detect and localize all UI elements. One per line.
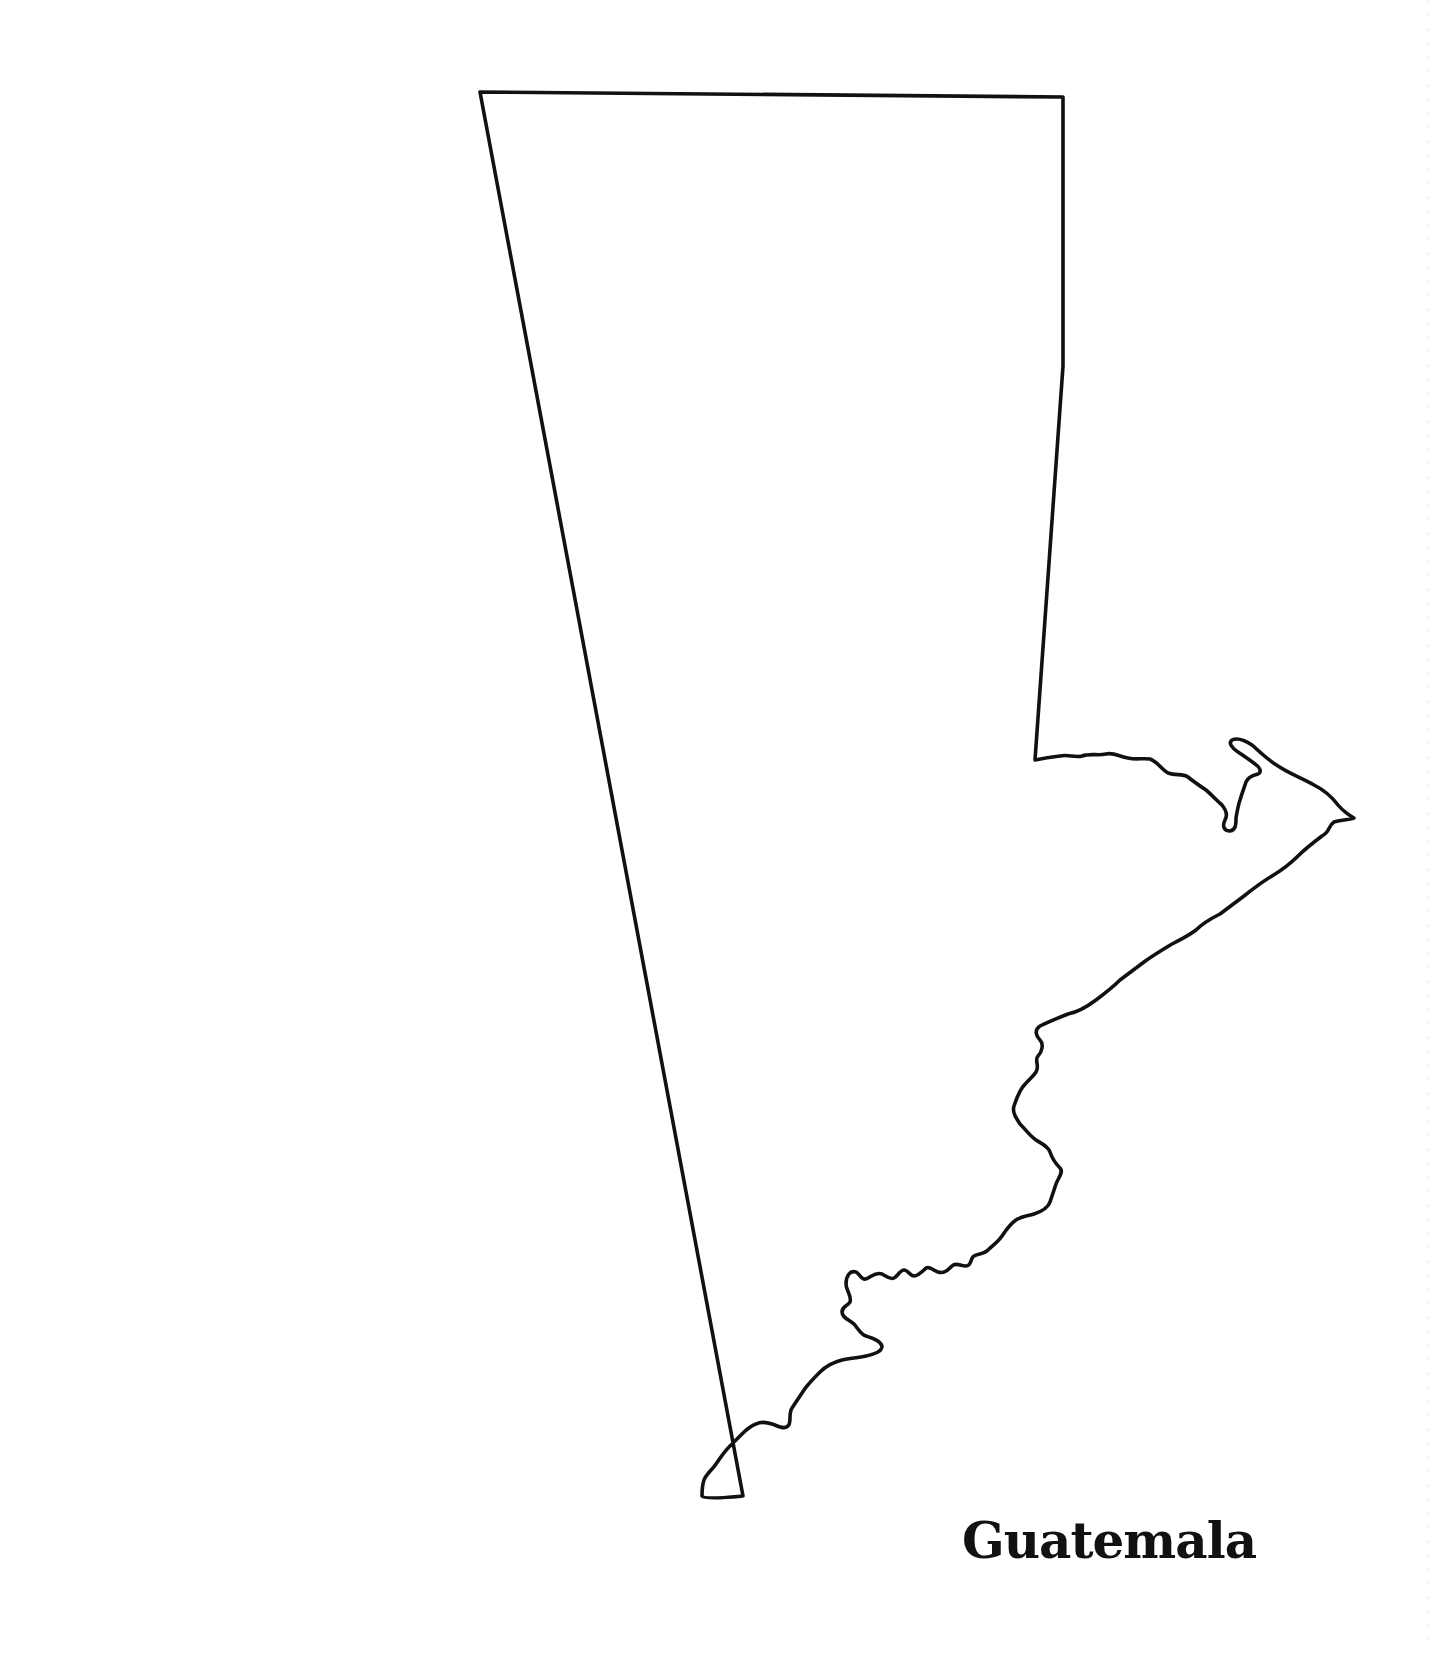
country-name-label: Guatemala	[962, 1516, 1256, 1566]
country-outline	[480, 92, 1354, 1498]
scan-edge-artifact	[1428, 0, 1429, 1653]
guatemala-outline-map	[0, 0, 1453, 1653]
